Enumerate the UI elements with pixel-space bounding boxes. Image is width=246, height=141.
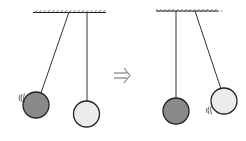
light-ball: [74, 101, 100, 127]
string-dark-ball: [41, 12, 69, 93]
dark-ball: [23, 92, 49, 118]
panel-before: [19, 10, 106, 127]
motion-marks: [206, 106, 211, 115]
light-ball: [211, 88, 237, 114]
implies-arrow-icon: [114, 68, 130, 83]
motion-marks: [19, 94, 25, 103]
pendulum-diagram: [0, 0, 246, 141]
string-light-ball: [195, 11, 221, 89]
panel-after: [156, 9, 237, 124]
dark-ball: [163, 98, 189, 124]
diagram-canvas: [0, 0, 246, 141]
